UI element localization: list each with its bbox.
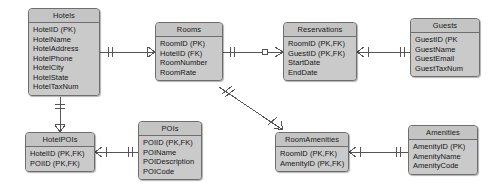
attribute-row: GuestName bbox=[415, 45, 479, 55]
attribute-row: HotelCity bbox=[33, 63, 99, 73]
connector-reservations-guests bbox=[357, 47, 410, 57]
entity-hotels[interactable]: Hotels HotelID (PK) HotelName HotelAddre… bbox=[28, 8, 100, 96]
attribute-row: GuestTaxNum bbox=[415, 64, 479, 74]
attribute-row: POIName bbox=[143, 148, 201, 158]
entity-hotels-title: Hotels bbox=[29, 9, 99, 23]
attribute-row: HotelName bbox=[33, 35, 99, 45]
entity-hotels-attributes: HotelID (PK) HotelName HotelAddress Hote… bbox=[29, 23, 99, 95]
entity-guests[interactable]: Guests GuestID (PK GuestName GuestEmail … bbox=[410, 18, 480, 77]
entity-pois-attributes: POIID (PK,FK) POIName POIDescription POI… bbox=[139, 136, 201, 179]
entity-reservations[interactable]: Reservations RoomID (PK,FK) GuestID (PK,… bbox=[283, 22, 357, 81]
attribute-row: AmenityName bbox=[413, 152, 477, 162]
entity-roomamenities-title: RoomAmenities bbox=[276, 133, 348, 147]
entity-reservations-title: Reservations bbox=[284, 23, 356, 37]
entity-reservations-attributes: RoomID (PK,FK) GuestID (PK,FK) StartDate… bbox=[284, 37, 356, 80]
attribute-row: HotelPhone bbox=[33, 54, 99, 64]
attribute-row: POICode bbox=[143, 167, 201, 177]
attribute-row: AmenityID (PK) bbox=[413, 142, 477, 152]
attribute-row: AmenityCode bbox=[413, 161, 477, 171]
connector-hotels-rooms bbox=[100, 47, 155, 57]
attribute-row: HotelState bbox=[33, 73, 99, 83]
attribute-row: GuestEmail bbox=[415, 54, 479, 64]
attribute-row: POIID (PK,FK) bbox=[30, 159, 94, 169]
attribute-row: GuestID (PK bbox=[415, 35, 479, 45]
entity-roomamenities-attributes: RoomID (PK,FK) AmenityID (PK,FK) bbox=[276, 147, 348, 171]
attribute-row: HotelTaxNum bbox=[33, 82, 99, 92]
attribute-row: StartDate bbox=[288, 58, 356, 68]
attribute-row: HotelID (PK) bbox=[33, 25, 99, 35]
connector-rooms-roomamenities bbox=[219, 86, 283, 130]
entity-amenities[interactable]: Amenities AmenityID (PK) AmenityName Ame… bbox=[408, 125, 478, 175]
attribute-row: AmenityID (PK,FK) bbox=[280, 159, 348, 169]
connector-hotels-hotelpois bbox=[55, 97, 65, 132]
entity-pois[interactable]: POIs POIID (PK,FK) POIName POIDescriptio… bbox=[138, 121, 202, 180]
er-diagram: Hotels HotelID (PK) HotelName HotelAddre… bbox=[0, 0, 493, 191]
connector-hotelpois-pois bbox=[95, 147, 138, 157]
entity-guests-attributes: GuestID (PK GuestName GuestEmail GuestTa… bbox=[411, 33, 479, 76]
attribute-row: POIID (PK,FK) bbox=[143, 138, 201, 148]
connector-rooms-reservations bbox=[223, 47, 283, 57]
entity-hotelpois-title: HotelPOIs bbox=[26, 133, 94, 147]
attribute-row: RoomRate bbox=[160, 68, 222, 78]
entity-hotelpois[interactable]: HotelPOIs HotelID (PK,FK) POIID (PK,FK) bbox=[25, 132, 95, 172]
attribute-row: EndDate bbox=[288, 68, 356, 78]
entity-rooms[interactable]: Rooms RoomID (PK) HotelID (FK) RoomNumbe… bbox=[155, 22, 223, 81]
entity-pois-title: POIs bbox=[139, 122, 201, 136]
attribute-row: POIDescription bbox=[143, 157, 201, 167]
attribute-row: HotelID (PK,FK) bbox=[30, 149, 94, 159]
entity-rooms-attributes: RoomID (PK) HotelID (FK) RoomNumber Room… bbox=[156, 37, 222, 80]
entity-amenities-title: Amenities bbox=[409, 126, 477, 140]
attribute-row: GuestID (PK,FK) bbox=[288, 49, 356, 59]
attribute-row: HotelAddress bbox=[33, 44, 99, 54]
attribute-row: HotelID (FK) bbox=[160, 49, 222, 59]
entity-hotelpois-attributes: HotelID (PK,FK) POIID (PK,FK) bbox=[26, 147, 94, 171]
entity-guests-title: Guests bbox=[411, 19, 479, 33]
connector-roomamenities-amenities bbox=[349, 147, 408, 157]
attribute-row: RoomID (PK,FK) bbox=[288, 39, 356, 49]
attribute-row: RoomID (PK) bbox=[160, 39, 222, 49]
attribute-row: RoomID (PK,FK) bbox=[280, 149, 348, 159]
entity-roomamenities[interactable]: RoomAmenities RoomID (PK,FK) AmenityID (… bbox=[275, 132, 349, 172]
attribute-row: RoomNumber bbox=[160, 58, 222, 68]
entity-rooms-title: Rooms bbox=[156, 23, 222, 37]
entity-amenities-attributes: AmenityID (PK) AmenityName AmenityCode bbox=[409, 140, 477, 174]
